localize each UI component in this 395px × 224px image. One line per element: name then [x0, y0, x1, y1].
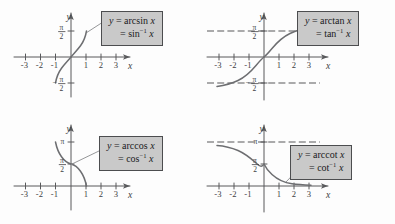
- tick-label-x: -1: [51, 189, 58, 199]
- tick-label-x: 3: [114, 189, 118, 199]
- callout-arctan: y = arctan x = tan−1 x: [297, 11, 359, 46]
- tick-label-x: 2: [99, 189, 103, 199]
- tick-label-x: 1: [277, 189, 281, 199]
- y-axis-label: y: [259, 123, 265, 134]
- svg-text:π: π: [59, 75, 63, 84]
- tick-label-x: 1: [84, 189, 88, 199]
- tick-label-x: 3: [307, 60, 311, 70]
- panel-arcsin: -3 -2 -1 1 2 3 π 2 − π 2 y x: [0, 0, 197, 112]
- callout-leader-arccos: [71, 150, 101, 165]
- callout-arccot: y = arccot x = cot−1 x: [290, 145, 352, 180]
- callout-line-1: y = arccot x: [298, 149, 344, 161]
- y-tick-label-neg-pi-over-2: − π 2: [52, 75, 65, 93]
- tick-label-x: -2: [36, 60, 43, 70]
- panel-arccos: -3 -2 -1 1 2 3 π π 2 y x y = arccos x = …: [0, 112, 197, 224]
- callout-line-1: y = arctan x: [305, 15, 351, 27]
- y-axis-label: y: [66, 11, 72, 22]
- y-axis-label: y: [259, 11, 265, 22]
- callout-line-2: = cot−1 x: [298, 161, 344, 175]
- y-axis-arccos: [68, 125, 74, 210]
- callout-arccos: y = arccos x = cos−1 x: [99, 136, 163, 171]
- callout-line-2: = sin−1 x: [109, 27, 155, 41]
- tick-label-x: 1: [277, 60, 281, 70]
- y-tick-label-pi-over-2: π 2: [251, 23, 258, 41]
- svg-text:2: 2: [253, 84, 257, 93]
- callout-line-1: y = arcsin x: [109, 15, 155, 27]
- y-axis-label: y: [66, 123, 72, 134]
- tick-label-x: -2: [229, 189, 236, 199]
- callout-line-2: = tan−1 x: [305, 27, 351, 41]
- svg-text:π: π: [60, 156, 64, 165]
- svg-text:π: π: [252, 23, 256, 32]
- tick-label-x: 3: [114, 60, 118, 70]
- svg-text:2: 2: [60, 165, 64, 174]
- svg-text:2: 2: [253, 32, 257, 41]
- y-tick-label-pi: π: [61, 137, 65, 146]
- tick-label-x: 2: [99, 60, 103, 70]
- tick-label-x: -3: [21, 189, 28, 199]
- x-axis-label: x: [325, 60, 331, 71]
- x-axis-arctan: [207, 54, 328, 60]
- tick-label-x: -2: [229, 60, 236, 70]
- tick-label-x: 1: [84, 60, 88, 70]
- panel-arccot: -3 -2 -1 1 2 3 π π 2 y x y = arccot x = …: [198, 112, 395, 224]
- tick-label-x: -3: [214, 60, 221, 70]
- svg-text:2: 2: [253, 165, 257, 174]
- y-tick-label-neg-pi-over-2: − π 2: [245, 75, 258, 93]
- panel-arctan: -3 -2 -1 1 2 3 π 2 − π 2 y x: [198, 0, 395, 112]
- callout-line-1: y = arccos x: [107, 140, 155, 152]
- x-axis-label: x: [325, 189, 331, 200]
- svg-text:−: −: [245, 78, 250, 87]
- tick-label-x: -1: [51, 60, 58, 70]
- y-tick-label-pi-over-2: π 2: [59, 156, 66, 174]
- callout-line-2: = cos−1 x: [107, 152, 155, 166]
- svg-text:π: π: [252, 75, 256, 84]
- figure-inverse-trig-graphs: -3 -2 -1 1 2 3 π 2 − π 2 y x: [0, 0, 395, 224]
- x-axis-label: x: [127, 60, 133, 71]
- tick-label-x: 3: [307, 189, 311, 199]
- svg-text:2: 2: [60, 32, 64, 41]
- svg-text:π: π: [253, 156, 257, 165]
- x-axis-arccos: [14, 183, 130, 189]
- tick-label-x: -1: [244, 60, 251, 70]
- tick-label-x: -1: [244, 189, 251, 199]
- svg-text:−: −: [52, 78, 57, 87]
- svg-text:π: π: [59, 23, 63, 32]
- y-tick-label-pi: π: [254, 137, 258, 146]
- x-axis-arccot: [207, 183, 328, 189]
- tick-label-x: -3: [214, 189, 221, 199]
- y-tick-label-pi-over-2: π 2: [58, 23, 65, 41]
- callout-arcsin: y = arcsin x = sin−1 x: [101, 11, 163, 46]
- tick-label-x: 2: [292, 189, 296, 199]
- x-axis-label: x: [127, 189, 133, 200]
- tick-label-x: -2: [36, 189, 43, 199]
- tick-label-x: -3: [21, 60, 28, 70]
- tick-label-x: 2: [292, 60, 296, 70]
- svg-text:2: 2: [60, 84, 64, 93]
